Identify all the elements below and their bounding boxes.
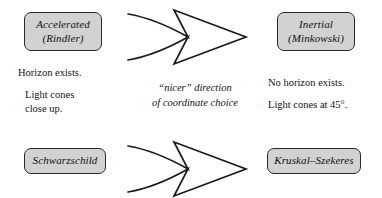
annotation-left-line1: Horizon exists. (18, 66, 128, 79)
node-accelerated-rindler: Accelerated (Rindler) (24, 12, 102, 51)
annotation-left-line2: Light cones (18, 88, 128, 101)
node-inertial-line2: (Minkowski) (288, 32, 344, 45)
node-schwarzschild-label: Schwarzschild (33, 154, 98, 167)
node-accelerated-line1: Accelerated (36, 18, 90, 31)
annotation-right: No horizon exists. Light cones at 45°. (268, 76, 382, 112)
node-inertial-line1: Inertial (299, 18, 333, 31)
annotation-left: Horizon exists. Light cones close up. (18, 66, 128, 115)
node-inertial-minkowski: Inertial (Minkowski) (277, 12, 355, 51)
annotation-right-line2: Light cones at 45°. (268, 98, 382, 111)
annotation-middle: “nicer” direction of coordinate choice (120, 80, 270, 110)
arrow-right-icon (126, 138, 266, 198)
arrow-bottom-right (126, 138, 266, 198)
node-schwarzschild: Schwarzschild (24, 148, 106, 174)
node-kruskal-label: Kruskal–Szekeres (274, 154, 353, 167)
arrow-right-icon (126, 6, 266, 68)
annotation-middle-line2: of coordinate choice (120, 95, 270, 110)
diagram-canvas: Accelerated (Rindler) Inertial (Minkowsk… (0, 0, 382, 198)
spacer (18, 79, 128, 88)
annotation-left-line3: close up. (18, 102, 128, 115)
node-kruskal-szekeres: Kruskal–Szekeres (267, 148, 361, 174)
spacer (268, 89, 382, 98)
arrow-top-right (126, 6, 266, 68)
annotation-right-line1: No horizon exists. (268, 76, 382, 89)
node-accelerated-line2: (Rindler) (42, 32, 83, 45)
annotation-middle-line1: “nicer” direction (120, 80, 270, 95)
